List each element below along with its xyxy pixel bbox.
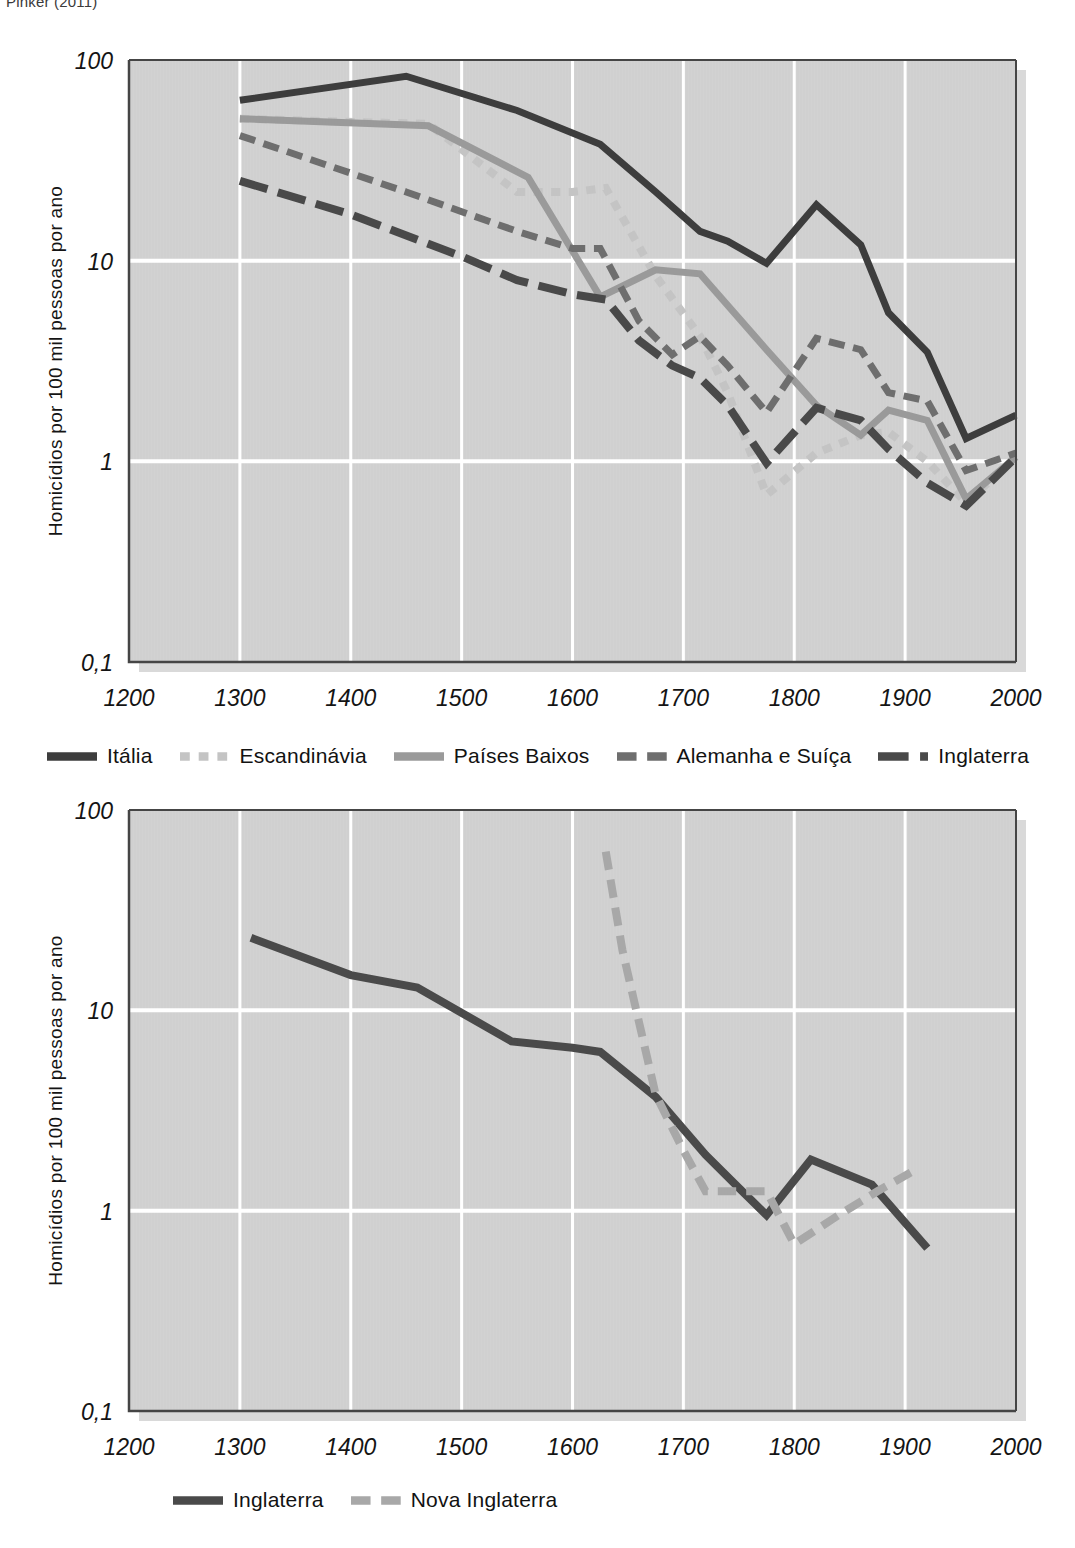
chart-panel-top: 0,11101001200130014001500160017001800190… (0, 40, 1075, 780)
legend-top: ItáliaEscandináviaPaíses BaixosAlemanha … (0, 744, 1075, 768)
x-tick-label: 1500 (436, 685, 487, 711)
legend-label: Inglaterra (233, 1488, 324, 1512)
legend-label: Alemanha e Suíça (677, 744, 852, 768)
y-tick-label: 0,1 (81, 650, 113, 676)
line-chart-top: 0,11101001200130014001500160017001800190… (0, 40, 1075, 780)
y-tick-label: 10 (87, 249, 113, 275)
y-tick-label: 100 (75, 48, 114, 74)
line-chart-bottom: 0,11101001200130014001500160017001800190… (0, 786, 1075, 1536)
x-tick-label: 1800 (769, 685, 820, 711)
legend-item[interactable]: Escandinávia (179, 744, 367, 768)
legend-item[interactable]: Países Baixos (393, 744, 590, 768)
x-tick-label: 1700 (658, 685, 709, 711)
y-axis-title: Homicídios por 100 mil pessoas por ano (45, 186, 66, 536)
legend-swatch-longdash-icon (877, 752, 929, 761)
x-tick-label: 1500 (436, 1434, 487, 1460)
x-tick-label: 1200 (103, 1434, 154, 1460)
legend-swatch-dotted-icon (179, 752, 231, 761)
legend-swatch-dashed-icon (616, 752, 668, 761)
x-tick-label: 1600 (547, 1434, 598, 1460)
y-tick-label: 1 (100, 1199, 113, 1225)
x-tick-label: 1300 (214, 1434, 265, 1460)
x-tick-label: 1900 (880, 685, 931, 711)
y-tick-label: 10 (87, 998, 113, 1024)
y-tick-label: 100 (75, 798, 114, 824)
legend-swatch-solid-icon (393, 752, 445, 761)
y-tick-label: 0,1 (81, 1399, 113, 1425)
legend-swatch-solid-icon (172, 1496, 224, 1505)
x-tick-label: 1200 (103, 685, 154, 711)
source-credit: Pinker (2011) (6, 0, 98, 10)
legend-item[interactable]: Nova Inglaterra (350, 1488, 558, 1512)
x-tick-label: 1600 (547, 685, 598, 711)
legend-item[interactable]: Inglaterra (172, 1488, 324, 1512)
legend-label: Escandinávia (240, 744, 367, 768)
legend-label: Itália (107, 744, 153, 768)
chart-panel-bottom: 0,11101001200130014001500160017001800190… (0, 786, 1075, 1536)
legend-swatch-solid-icon (46, 752, 98, 761)
x-tick-label: 1800 (769, 1434, 820, 1460)
x-tick-label: 1400 (325, 1434, 376, 1460)
y-tick-label: 1 (100, 449, 113, 475)
legend-swatch-dashed-icon (350, 1496, 402, 1505)
x-tick-label: 1700 (658, 1434, 709, 1460)
legend-bottom: InglaterraNova Inglaterra (0, 1488, 1075, 1512)
legend-item[interactable]: Itália (46, 744, 153, 768)
legend-item[interactable]: Inglaterra (877, 744, 1029, 768)
x-tick-label: 1400 (325, 685, 376, 711)
x-tick-label: 2000 (989, 1434, 1041, 1460)
legend-label: Países Baixos (454, 744, 590, 768)
legend-item[interactable]: Alemanha e Suíça (616, 744, 852, 768)
legend-label: Inglaterra (938, 744, 1029, 768)
x-tick-label: 1900 (880, 1434, 931, 1460)
legend-label: Nova Inglaterra (411, 1488, 558, 1512)
x-tick-label: 2000 (989, 685, 1041, 711)
y-axis-title: Homicídios por 100 mil pessoas por ano (45, 935, 66, 1285)
x-tick-label: 1300 (214, 685, 265, 711)
